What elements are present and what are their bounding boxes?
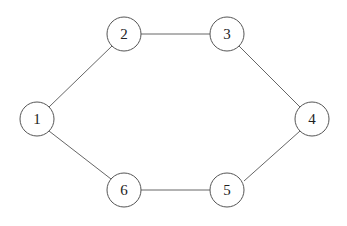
node-3: 3 [210,17,244,51]
node-label: 6 [120,182,128,198]
node-label: 2 [120,26,128,42]
node-label: 3 [223,26,231,42]
node-6: 6 [107,173,141,207]
edge-1-2 [49,46,112,107]
edge-4-5 [244,131,300,181]
node-2: 2 [107,17,141,51]
node-label: 4 [308,111,316,127]
node-5: 5 [210,173,244,207]
node-label: 5 [223,182,231,198]
node-label: 1 [33,111,41,127]
node-4: 4 [295,102,329,136]
graph-svg: 1 2 3 4 5 6 [0,0,347,226]
edge-6-1 [49,131,111,179]
nodes: 1 2 3 4 5 6 [20,17,329,207]
edge-3-4 [239,46,300,107]
node-1: 1 [20,102,54,136]
graph-diagram: 1 2 3 4 5 6 [0,0,347,226]
edges [49,34,300,190]
